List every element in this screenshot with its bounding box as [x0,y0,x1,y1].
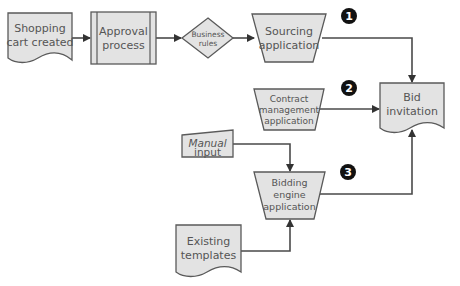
label: application [263,201,315,212]
badge-2: 2 [341,80,357,96]
connector-manual-bidding [233,144,290,171]
label: application [264,116,314,126]
flow-diagram: Shopping cart created Approval process B… [0,0,460,286]
badge-number: 3 [344,166,352,179]
label: Bid [403,91,421,104]
connector-sourcing-bid [322,38,412,82]
node-bidding-engine-application: Bidding engine application [254,172,325,219]
connector-templates-bidding [241,220,290,251]
label: Business [191,30,224,39]
label: management [259,105,320,115]
badge-3: 3 [340,164,356,180]
label: process [102,39,145,52]
node-manual-input: Manual input [182,130,233,158]
label: engine [273,189,306,200]
label: Approval [99,25,148,38]
label: rules [199,39,218,48]
node-business-rules: Business rules [182,18,233,58]
label: cart created [6,36,73,49]
label: Existing [187,235,231,248]
label: invitation [386,105,438,118]
node-bid-invitation: Bid invitation [380,83,444,133]
badge-number: 1 [345,10,353,23]
node-approval-process: Approval process [91,12,156,64]
node-contract-management-application: Contract management application [254,89,324,130]
badge-number: 2 [345,82,353,95]
connector-bidding-bid [320,130,412,194]
node-sourcing-application: Sourcing application [252,14,326,62]
label: application [259,39,320,52]
label: templates [181,249,237,262]
node-shopping-cart-created: Shopping cart created [6,13,73,63]
label: Bidding [272,177,308,188]
badge-1: 1 [341,8,357,24]
label: Sourcing [265,25,313,38]
label: Contract [270,94,309,104]
label: input [194,146,221,158]
node-existing-templates: Existing templates [176,225,241,277]
label: Shopping [14,22,66,35]
